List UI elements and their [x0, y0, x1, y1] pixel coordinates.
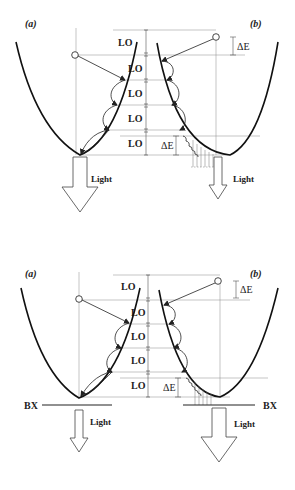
lo-cascade-a	[81, 323, 129, 396]
top-panel: (a) (b) LO	[16, 18, 278, 212]
parabola-b	[159, 288, 278, 397]
panel-label-a: (a)	[25, 18, 37, 30]
bx-label: BX	[24, 400, 39, 411]
lo-label: LO	[131, 331, 146, 342]
bx-label: BX	[263, 400, 278, 411]
delta-e-label: ΔE	[240, 284, 253, 295]
delta-e-bottom-marker: ΔE	[161, 136, 179, 155]
lo-label: LO	[128, 113, 143, 124]
light-arrow-small	[209, 157, 227, 199]
initial-state-circle-b	[213, 34, 220, 41]
light-label: Light	[234, 419, 255, 429]
diagram-canvas: (a) (b) LO	[0, 0, 295, 490]
lo-label: LO	[118, 37, 133, 48]
injection-arrow-b	[162, 39, 213, 61]
injection-arrow-a	[82, 300, 129, 323]
panel-label-b: (b)	[250, 268, 262, 280]
initial-state-circle-a	[76, 296, 83, 303]
delta-e-right-marker: ΔE	[233, 281, 253, 298]
delta-e-right-marker: ΔE	[230, 37, 250, 55]
parabola-a	[21, 288, 140, 398]
initial-state-circle-a	[72, 52, 79, 59]
light-arrow-large	[201, 408, 237, 462]
lo-label: LO	[128, 138, 143, 149]
parabola-b	[157, 42, 278, 155]
parabola-a	[16, 42, 137, 155]
initial-state-circle-b	[215, 278, 222, 285]
delta-e-label: ΔE	[163, 382, 176, 393]
lo-label: LO	[121, 281, 136, 292]
lo-label: LO	[131, 355, 146, 366]
panel-label-b: (b)	[250, 18, 262, 30]
light-arrow-small	[70, 410, 88, 452]
lo-label: LO	[131, 380, 146, 391]
lo-cascade-a	[81, 80, 125, 154]
light-label: Light	[91, 174, 112, 184]
lo-label: LO	[128, 88, 143, 99]
delta-e-bottom-marker: ΔE	[163, 378, 181, 397]
bottom-panel: (a) (b) LO LO LO LO	[21, 268, 278, 462]
panel-label-a: (a)	[25, 268, 37, 280]
lo-dimension-column	[146, 275, 150, 397]
light-label: Light	[233, 174, 254, 184]
injection-arrow-b	[164, 283, 215, 305]
delta-e-label: ΔE	[237, 41, 250, 52]
delta-e-label: ΔE	[161, 140, 174, 151]
light-arrow-large	[62, 157, 98, 212]
injection-arrow-a	[78, 56, 125, 80]
light-label: Light	[90, 417, 111, 427]
